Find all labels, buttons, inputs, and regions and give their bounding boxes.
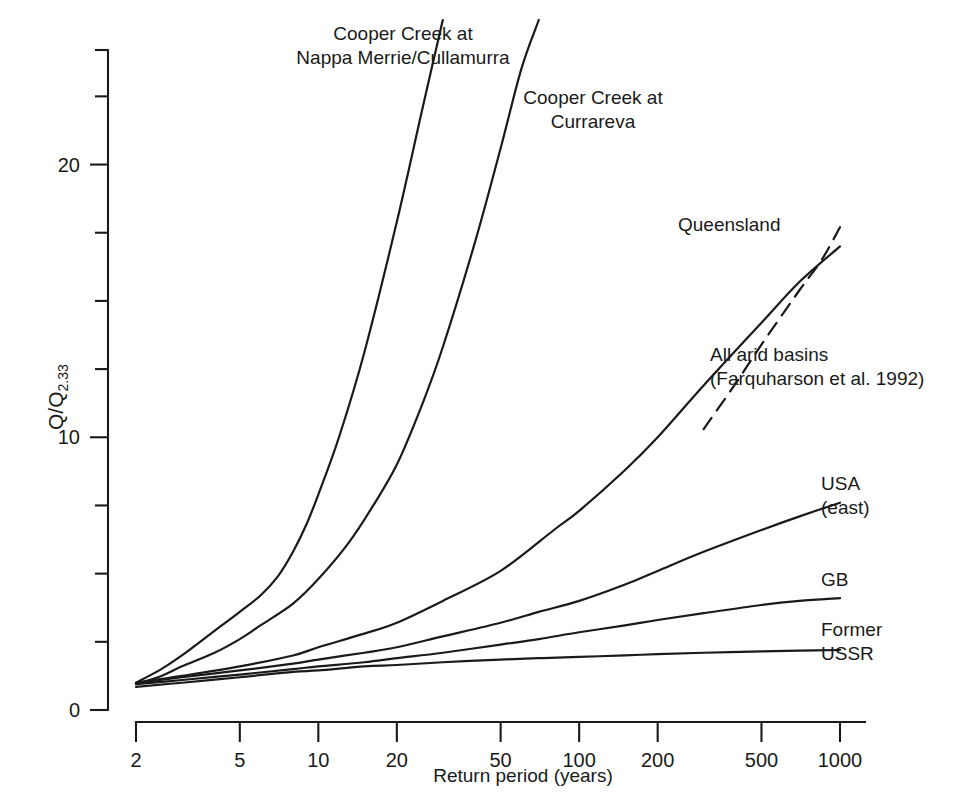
annotation-all-arid-basins: All arid basins(Farquharson et al. 1992) [710,343,970,391]
curve-all-arid-basins-farquharson-et-al-1992 [136,246,840,682]
y-axis-tick-label: 20 [58,154,80,176]
x-axis-tick-label: 1000 [818,749,863,771]
annotation-line: Cooper Creek at [503,86,683,110]
annotation-gb: GB [821,568,881,592]
annotation-line: Former [821,618,911,642]
curve-former-ussr [136,650,840,687]
x-axis-title: Return period (years) [433,765,613,786]
annotation-cooper-currareva: Cooper Creek atCurrareva [503,86,683,134]
y-axis-title: Q/Q2.33 [44,364,71,430]
x-axis-tick-label: 10 [307,749,329,771]
annotation-usa-east: USA(east) [821,472,911,520]
annotation-line: Nappa Merrie/Cullamurra [253,46,553,70]
x-axis-tick-label: 5 [234,749,245,771]
y-axis-tick-label: 0 [69,699,80,721]
x-axis-tick-label: 20 [386,749,408,771]
x-axis-tick-label: 2 [130,749,141,771]
annotation-line: (Farquharson et al. 1992) [710,367,970,391]
chart-figure: 01020251020501002005001000 Return period… [0,0,975,808]
annotation-queensland: Queensland [678,213,818,237]
x-axis-tick-label: 500 [745,749,778,771]
annotation-line: Queensland [678,213,818,237]
annotation-line: USSR [821,642,911,666]
annotation-former-ussr: FormerUSSR [821,618,911,666]
annotation-line: Currareva [503,110,683,134]
curve-queensland [704,227,840,429]
annotation-cooper-nappa-merrie: Cooper Creek atNappa Merrie/Cullamurra [253,22,553,70]
curve-usa-east [136,503,840,684]
annotation-line: (east) [821,496,911,520]
y-axis-title-text: Q/Q2.33 [44,364,67,430]
annotation-line: All arid basins [710,343,970,367]
chart-svg: 01020251020501002005001000 Return period… [0,0,975,808]
x-axis-tick-label: 200 [641,749,674,771]
annotation-line: USA [821,472,911,496]
curve-cooper-creek-at-nappa-merrie-cullamurra [136,20,443,683]
annotation-line: Cooper Creek at [253,22,553,46]
annotation-line: GB [821,568,881,592]
